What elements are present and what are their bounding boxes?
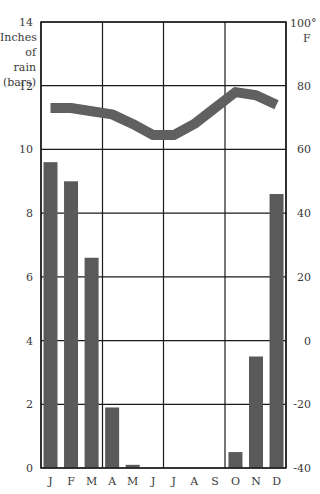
right-axis-top-label: 100°: [290, 17, 317, 30]
left-axis-tick-label: 8: [26, 207, 33, 220]
month-label: D: [272, 475, 281, 488]
left-axis-tick-label: 0: [26, 462, 33, 475]
rain-bar: [64, 181, 78, 468]
month-label: M: [127, 475, 138, 488]
right-axis-tick-label: 40: [297, 207, 311, 220]
month-label: O: [231, 475, 240, 488]
month-label: A: [107, 475, 117, 488]
month-label: M: [86, 475, 97, 488]
right-axis-tick-label: 60: [297, 143, 311, 156]
right-axis-tick-label: -40: [293, 462, 311, 475]
right-axis-tick-label: 0: [304, 335, 311, 348]
right-axis-tick-label: 20: [297, 271, 311, 284]
left-axis-title-line-2: of rain: [0, 45, 36, 75]
month-label: A: [189, 475, 199, 488]
rain-bar: [270, 194, 284, 468]
right-axis-tick-label: -20: [293, 398, 311, 411]
month-label: N: [251, 475, 261, 488]
x-axis-month-labels: JFMAMJJASOND: [47, 475, 281, 488]
month-label: J: [171, 475, 176, 488]
month-label: J: [150, 475, 155, 488]
rain-bar: [105, 407, 119, 468]
rain-bar: [44, 162, 58, 468]
left-axis-tick-label: 14: [19, 16, 33, 29]
rain-bar: [228, 452, 242, 468]
left-axis-tick-label: 4: [26, 335, 33, 348]
right-axis-unit-label: F: [303, 32, 311, 45]
rain-bar: [249, 357, 263, 469]
month-label: F: [67, 475, 75, 488]
month-label: J: [47, 475, 52, 488]
right-axis-tick-label: 80: [297, 80, 311, 93]
left-axis-tick-label: 10: [19, 143, 33, 156]
left-axis-tick-label: 2: [26, 398, 33, 411]
left-axis-tick-label: 6: [26, 271, 33, 284]
month-label: S: [211, 475, 219, 488]
left-axis-title-line-3: (bars): [0, 75, 36, 90]
left-axis-title-line-1: Inches: [0, 30, 36, 45]
left-axis-title: Inches of rain (bars): [0, 30, 36, 90]
climate-chart: 02468101214 -40-20020406080 JFMAMJJASOND…: [0, 0, 320, 494]
rain-bar: [85, 258, 99, 468]
right-axis-ticks: -40-20020406080: [293, 80, 311, 475]
